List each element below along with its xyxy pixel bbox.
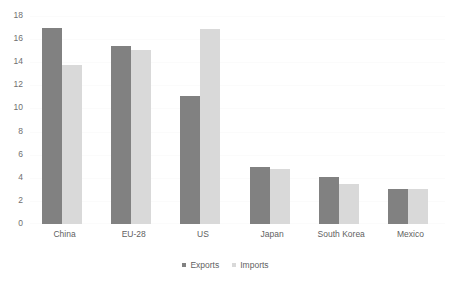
bar-group <box>111 16 151 224</box>
y-axis-tick-label: 14 <box>0 57 23 66</box>
y-axis-tick-label: 8 <box>0 127 23 136</box>
bar-group <box>319 16 359 224</box>
gridline <box>30 16 445 17</box>
bar-group <box>250 16 290 224</box>
gridline <box>30 85 445 86</box>
y-axis-tick-label: 6 <box>0 150 23 159</box>
y-axis-tick-label: 4 <box>0 173 23 182</box>
bar-group <box>180 16 220 224</box>
y-axis-tick-label: 12 <box>0 80 23 89</box>
y-axis: 181614121086420 <box>0 0 30 281</box>
bar-imports-mexico[interactable] <box>408 189 428 224</box>
bar-exports-japan[interactable] <box>250 167 270 224</box>
bar-imports-eu-28[interactable] <box>131 50 151 224</box>
x-axis-tick-label: South Korea <box>307 228 376 240</box>
x-axis: ChinaEU-28USJapanSouth KoreaMexico <box>30 228 445 244</box>
x-axis-tick-label: Mexico <box>376 228 445 240</box>
gridline <box>30 108 445 109</box>
x-axis-tick-label: US <box>168 228 237 240</box>
plot-area <box>30 16 445 224</box>
gridline <box>30 178 445 179</box>
y-axis-tick-label: 18 <box>0 11 23 20</box>
gridline <box>30 155 445 156</box>
y-axis-tick-label: 16 <box>0 34 23 43</box>
bar-exports-eu-28[interactable] <box>111 46 131 224</box>
legend-swatch-icon <box>232 263 236 267</box>
gridline <box>30 132 445 133</box>
bar-imports-japan[interactable] <box>270 169 290 224</box>
y-axis-tick-label: 0 <box>0 219 23 228</box>
bar-group <box>42 16 82 224</box>
gridline <box>30 201 445 202</box>
y-axis-tick-label: 2 <box>0 196 23 205</box>
bar-exports-china[interactable] <box>42 28 62 224</box>
bar-imports-us[interactable] <box>200 29 220 224</box>
x-axis-tick-label: Japan <box>238 228 307 240</box>
x-axis-tick-label: EU-28 <box>99 228 168 240</box>
gridline <box>30 39 445 40</box>
bar-exports-south-korea[interactable] <box>319 177 339 224</box>
y-axis-tick-label: 10 <box>0 103 23 112</box>
chart-legend: ExportsImports <box>0 260 451 270</box>
gridline <box>30 223 445 224</box>
bar-group <box>388 16 428 224</box>
legend-item-imports[interactable]: Imports <box>232 260 268 270</box>
bar-imports-china[interactable] <box>62 65 82 224</box>
x-axis-tick-label: China <box>30 228 99 240</box>
legend-label: Exports <box>190 260 219 270</box>
gridline <box>30 62 445 63</box>
bar-imports-south-korea[interactable] <box>339 184 359 224</box>
bar-chart: 181614121086420 ChinaEU-28USJapanSouth K… <box>0 0 451 281</box>
legend-label: Imports <box>240 260 268 270</box>
bar-exports-mexico[interactable] <box>388 189 408 224</box>
legend-item-exports[interactable]: Exports <box>182 260 219 270</box>
legend-swatch-icon <box>182 263 186 267</box>
bar-exports-us[interactable] <box>180 96 200 224</box>
